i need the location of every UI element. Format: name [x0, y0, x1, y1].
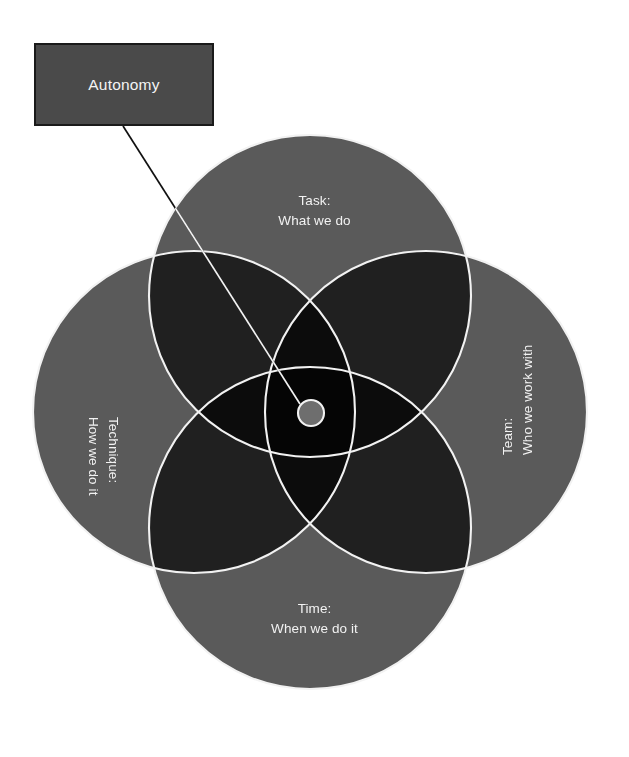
autonomy-center-circle	[298, 400, 324, 426]
autonomy-callout-box: Autonomy	[34, 43, 214, 126]
venn-diagram: Task: What we do Team: Who we work with …	[0, 0, 629, 757]
autonomy-callout-label: Autonomy	[88, 76, 159, 94]
